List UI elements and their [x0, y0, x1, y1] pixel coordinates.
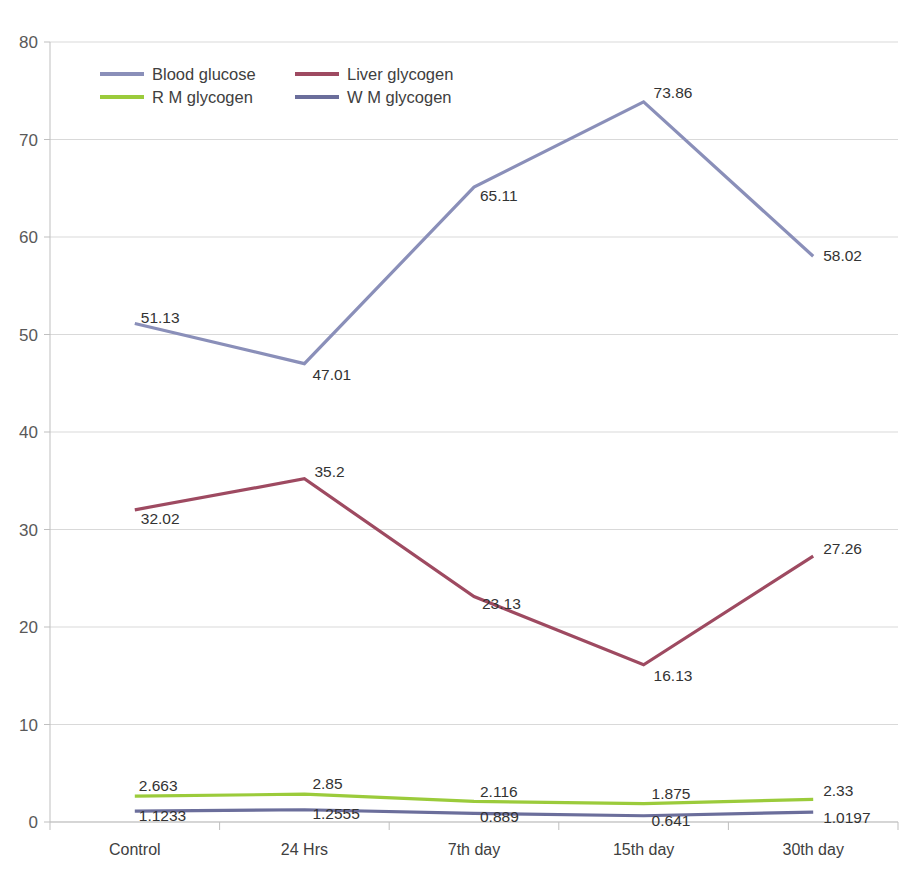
x-axis-group: Control24 Hrs7th day15th day30th day [50, 822, 898, 858]
y-tick-label-20: 20 [19, 618, 38, 637]
data-label-s0-p3: 73.86 [654, 84, 693, 101]
data-label-s0-p1: 47.01 [312, 366, 351, 383]
gridlines-group [50, 42, 898, 822]
legend-item-3[interactable]: W M glycogen [295, 88, 452, 106]
x-category-label-3: 15th day [613, 841, 674, 858]
data-labels-group: 51.1347.0165.1173.8658.0232.0235.223.131… [139, 84, 871, 829]
series-line-0[interactable] [135, 102, 813, 364]
data-label-s0-p4: 58.02 [823, 247, 862, 264]
data-label-s2-p1: 2.85 [312, 775, 342, 792]
data-label-s2-p0: 2.663 [139, 777, 178, 794]
data-label-s2-p3: 1.875 [652, 785, 691, 802]
data-label-s1-p1: 35.2 [314, 463, 344, 480]
x-category-label-1: 24 Hrs [281, 841, 328, 858]
series-line-2[interactable] [135, 794, 813, 804]
data-label-s3-p3: 0.641 [652, 812, 691, 829]
data-label-s1-p0: 32.02 [141, 510, 180, 527]
data-label-s0-p0: 51.13 [141, 309, 180, 326]
y-tick-label-0: 0 [29, 813, 38, 832]
y-tick-label-30: 30 [19, 521, 38, 540]
chart-canvas: 01020304050607080 Control24 Hrs7th day15… [0, 0, 910, 879]
legend-label-1: Liver glycogen [347, 65, 453, 83]
x-category-label-2: 7th day [448, 841, 500, 858]
y-tick-label-10: 10 [19, 716, 38, 735]
y-tick-label-80: 80 [19, 33, 38, 52]
legend-label-3: W M glycogen [347, 88, 452, 106]
data-label-s2-p4: 2.33 [823, 782, 853, 799]
series-group [135, 102, 813, 816]
legend-label-2: R M glycogen [152, 88, 253, 106]
data-label-s3-p4: 1.0197 [823, 809, 870, 826]
x-category-label-4: 30th day [783, 841, 844, 858]
y-tick-label-70: 70 [19, 131, 38, 150]
data-label-s1-p4: 27.26 [823, 540, 862, 557]
data-label-s3-p2: 0.889 [480, 808, 519, 825]
series-line-3[interactable] [135, 810, 813, 816]
data-label-s3-p1: 1.2555 [312, 805, 359, 822]
y-tick-label-50: 50 [19, 326, 38, 345]
data-label-s1-p2: 23.13 [482, 595, 521, 612]
legend-item-1[interactable]: Liver glycogen [295, 65, 453, 83]
x-category-label-0: Control [109, 841, 161, 858]
legend-group: Blood glucoseLiver glycogenR M glycogenW… [100, 65, 453, 106]
data-label-s3-p0: 1.1233 [139, 807, 186, 824]
y-tick-label-40: 40 [19, 423, 38, 442]
line-chart: 01020304050607080 Control24 Hrs7th day15… [0, 0, 910, 879]
y-axis-group: 01020304050607080 [19, 33, 50, 832]
legend-item-0[interactable]: Blood glucose [100, 65, 256, 83]
data-label-s1-p3: 16.13 [654, 667, 693, 684]
data-label-s0-p2: 65.11 [480, 187, 518, 204]
series-line-1[interactable] [135, 479, 813, 665]
legend-item-2[interactable]: R M glycogen [100, 88, 253, 106]
data-label-s2-p2: 2.116 [480, 783, 518, 800]
y-tick-label-60: 60 [19, 228, 38, 247]
legend-label-0: Blood glucose [152, 65, 256, 83]
